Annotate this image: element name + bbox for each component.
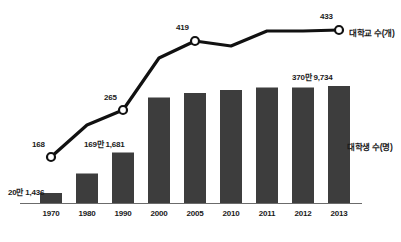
bar-2000	[148, 98, 170, 204]
bar-2012	[292, 88, 314, 204]
line-label-1970: 168	[32, 140, 45, 149]
bar-2010	[220, 90, 242, 203]
bar-1980	[76, 174, 98, 204]
bar-label-1970: 20만 1,436	[8, 186, 44, 197]
line-label-1990: 265	[104, 93, 117, 102]
x-tick-2013: 2013	[323, 209, 355, 218]
bar-2005	[184, 93, 206, 203]
chart-canvas	[0, 0, 401, 242]
x-tick-2012: 2012	[287, 209, 319, 218]
bar-1990	[112, 153, 134, 204]
line-marker-2013	[335, 26, 343, 34]
x-tick-2011: 2011	[251, 209, 283, 218]
x-tick-1980: 1980	[71, 209, 103, 218]
x-tick-1990: 1990	[107, 209, 139, 218]
bar-2011	[256, 88, 278, 204]
bar-label-2013: 370만 9,734	[292, 71, 333, 82]
line-marker-1990	[119, 106, 127, 114]
x-tick-2005: 2005	[179, 209, 211, 218]
line-label-2013: 433	[320, 12, 333, 21]
legend-line-label: 대학교 수(개)	[349, 26, 395, 38]
x-tick-1970: 1970	[35, 209, 67, 218]
line-marker-1970	[47, 153, 55, 161]
line-marker-2005	[191, 37, 199, 45]
x-tick-2010: 2010	[215, 209, 247, 218]
bar-label-1990: 169만 1,681	[84, 138, 125, 149]
line-label-2005: 419	[176, 23, 189, 32]
chart-container: 168 265 419 433 20만 1,436 169만 1,681 370…	[0, 0, 401, 242]
x-tick-2000: 2000	[143, 209, 175, 218]
legend-bar-label: 대학생 수(명)	[347, 140, 393, 152]
